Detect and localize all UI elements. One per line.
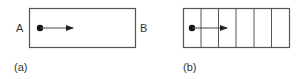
label-a: A bbox=[16, 22, 24, 34]
label-b: B bbox=[140, 22, 147, 34]
caption-b: (b) bbox=[183, 61, 196, 73]
diagram-canvas: A B (a) (b) bbox=[0, 0, 305, 79]
caption-a: (a) bbox=[14, 61, 27, 73]
panel-b: (b) bbox=[183, 9, 290, 74]
panel-a: A B (a) bbox=[14, 9, 147, 74]
